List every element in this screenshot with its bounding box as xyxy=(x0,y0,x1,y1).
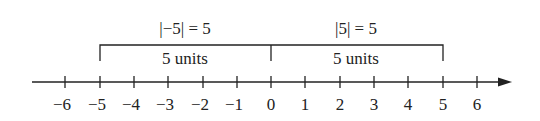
tick-label: −5 xyxy=(88,96,106,113)
tick-label: 4 xyxy=(404,96,413,113)
tick-label: 1 xyxy=(301,96,310,113)
tick-label: −4 xyxy=(122,96,140,113)
right-span-label: 5 units xyxy=(333,50,379,67)
tick-label: −6 xyxy=(53,96,71,113)
tick-label: 2 xyxy=(336,96,345,113)
right-equation: |5| = 5 xyxy=(335,20,377,37)
left-equation: |−5| = 5 xyxy=(159,20,210,37)
tick-label: 6 xyxy=(473,96,482,113)
tick-label: 5 xyxy=(439,96,448,113)
left-span-label: 5 units xyxy=(162,50,208,67)
tick-label: −2 xyxy=(191,96,209,113)
tick-label: 3 xyxy=(370,96,379,113)
tick-label: 0 xyxy=(267,96,276,113)
distance-bracket xyxy=(100,45,443,61)
arrow-icon xyxy=(498,78,512,87)
tick-label: −3 xyxy=(156,96,174,113)
tick-label: −1 xyxy=(225,96,243,113)
